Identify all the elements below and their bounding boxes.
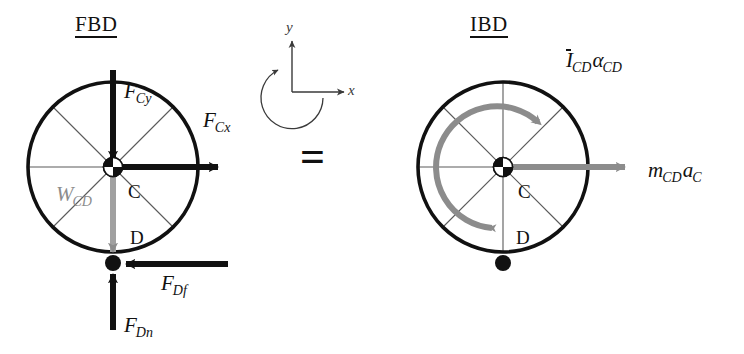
label-m-a: mCDaC [648, 160, 702, 181]
label-m-symbol: m [648, 158, 663, 182]
ibd-point-d-marker [495, 255, 511, 271]
ibd-title: IBD [470, 14, 508, 38]
coordinate-axes-key [261, 41, 344, 129]
figure-canvas: FBD IBD = y x FCy FCx WCD FDf FDn C D IC… [0, 0, 744, 354]
label-f-cy-symbol: F [124, 79, 137, 103]
fbd-label-c: C [128, 182, 141, 201]
label-f-cx: FCx [203, 110, 231, 131]
label-f-dn-symbol: F [124, 313, 137, 337]
fbd-point-d-marker [105, 255, 121, 271]
label-w-cd-symbol: W [56, 182, 74, 206]
diagram-vector-layer [0, 0, 744, 354]
equals-sign: = [300, 135, 325, 179]
label-m-subscript: CD [662, 170, 681, 185]
label-i-alpha: ICDαCD [566, 50, 623, 71]
label-f-dn: FDn [124, 315, 154, 336]
fbd-label-d: D [130, 228, 144, 247]
x-axis-label: x [348, 83, 355, 98]
label-f-cy: FCy [124, 81, 152, 102]
label-alpha-subscript: CD [602, 60, 621, 75]
label-f-cy-subscript: Cy [136, 91, 152, 106]
ibd-label-c: C [518, 182, 531, 201]
ibd-label-d: D [516, 228, 530, 247]
label-f-cx-symbol: F [203, 108, 216, 132]
label-f-dn-subscript: Dn [136, 325, 153, 340]
label-f-cx-subscript: Cx [215, 120, 231, 135]
fbd-title: FBD [75, 14, 117, 38]
y-axis-label: y [286, 20, 293, 35]
label-w-cd-subscript: CD [73, 194, 92, 209]
ibd-center-of-mass-marker [494, 158, 513, 177]
fbd-center-of-mass-marker [104, 158, 123, 177]
label-w-cd: WCD [56, 184, 93, 205]
label-i-subscript: CD [572, 60, 591, 75]
label-f-df-subscript: Df [173, 283, 187, 298]
label-f-df: FDf [161, 273, 188, 294]
label-f-df-symbol: F [161, 271, 174, 295]
label-a-subscript: C [692, 170, 701, 185]
